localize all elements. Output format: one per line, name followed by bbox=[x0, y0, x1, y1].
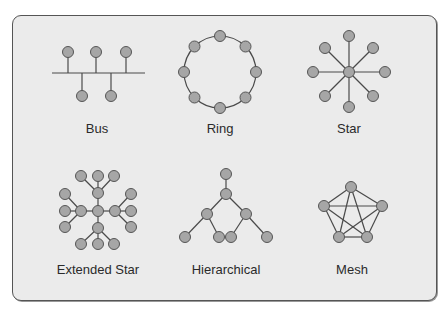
label-star: Star bbox=[337, 121, 362, 136]
label-bus: Bus bbox=[86, 121, 109, 136]
bus-topology: Bus bbox=[52, 47, 145, 137]
label-hierarchical: Hierarchical bbox=[192, 262, 261, 277]
mesh-topology: Mesh bbox=[319, 182, 388, 278]
star-topology: Star bbox=[308, 31, 391, 137]
topology-diagram: Bus Ring Star bbox=[0, 0, 446, 314]
ring-topology: Ring bbox=[179, 31, 262, 137]
label-mesh: Mesh bbox=[336, 262, 368, 277]
label-ring: Ring bbox=[207, 121, 234, 136]
label-extended-star: Extended Star bbox=[57, 262, 140, 277]
extended-star-topology: Extended Star bbox=[57, 171, 140, 278]
hierarchical-topology: Hierarchical bbox=[180, 169, 273, 278]
